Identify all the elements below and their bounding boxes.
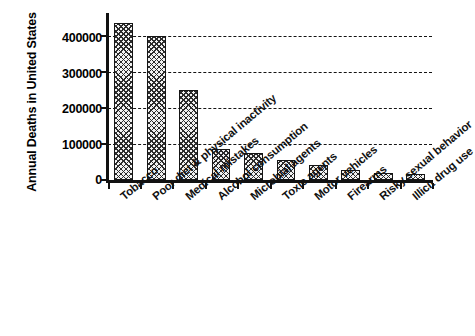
x-axis-tick-labels: TobaccoPoor diet & physical inactivityMe… <box>0 0 452 336</box>
bar-chart: Annual Deaths in United States 400000 30… <box>0 0 452 336</box>
